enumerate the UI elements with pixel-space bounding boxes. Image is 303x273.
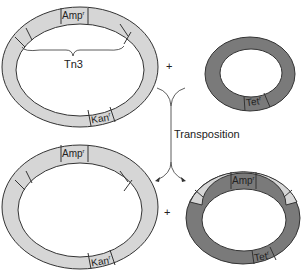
amp-label: Ampr	[62, 10, 85, 21]
transposition-label: Transposition	[174, 128, 240, 140]
amp-label-bottom-left: Ampr	[62, 148, 85, 159]
transposition-diagram: Ampr Kanr Tn3 + Tetr Transposition	[0, 0, 303, 273]
plus-sign-top: +	[166, 60, 172, 72]
tn3-label: Tn3	[64, 58, 83, 70]
plasmid-bottom-left: Ampr Kanr	[2, 145, 158, 269]
plasmid-bottom-right: Ampr Tetr	[186, 172, 300, 264]
arrowhead-right	[181, 177, 186, 182]
kan-label-bottom-left: Kanr	[90, 254, 111, 268]
plus-sign-bottom: +	[164, 206, 170, 218]
plasmid-top-left: Ampr Kanr Tn3	[2, 7, 158, 127]
arrowhead-left	[155, 177, 160, 182]
plasmid-top-right: Tetr	[205, 37, 295, 111]
amp-label-bottom-right: Ampr	[232, 175, 255, 186]
